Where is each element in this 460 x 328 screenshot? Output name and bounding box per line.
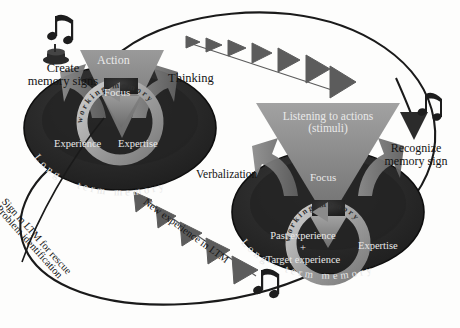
verbalization-label: Verbalization xyxy=(196,168,257,180)
left-focus-label: Focus xyxy=(104,87,130,99)
create-memory-signs-label: Create memory signs xyxy=(16,62,110,88)
left-disc-item-experience: Experience xyxy=(54,138,101,149)
left-disc-item-expertise: Expertise xyxy=(118,138,158,149)
right-disc-item-expertise: Expertise xyxy=(358,240,398,251)
right-listening-label: Listening to actions (stimuli) xyxy=(258,110,398,134)
top-arrow-chain xyxy=(186,36,356,98)
left-action-label: Action xyxy=(97,54,130,67)
right-focus-label: Focus xyxy=(310,172,336,184)
music-note-top-left-icon xyxy=(46,15,74,46)
music-note-bottom-icon xyxy=(252,269,280,300)
recognize-memory-sign-label: Recognize memory sign xyxy=(372,142,460,167)
right-disc-experience-group: Past experience + Target experience xyxy=(248,230,358,266)
diagram-canvas: Long - term memory Long - term memory wo… xyxy=(0,0,460,328)
thinking-label: Thinking xyxy=(168,72,214,85)
